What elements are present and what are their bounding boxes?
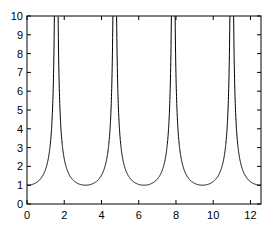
plot-area <box>27 16 261 204</box>
x-tick-label: 6 <box>136 209 142 221</box>
y-tick-label: 6 <box>17 85 23 97</box>
y-tick-label: 9 <box>17 29 23 41</box>
y-tick-label: 3 <box>17 142 23 154</box>
y-tick-label: 4 <box>17 123 23 135</box>
y-tick-label: 8 <box>17 48 23 60</box>
x-tick-label: 2 <box>61 209 67 221</box>
y-tick-label: 7 <box>17 66 23 78</box>
y-tick-label: 1 <box>17 179 23 191</box>
x-tick-label: 10 <box>207 209 219 221</box>
x-tick-label: 12 <box>244 209 256 221</box>
x-tick-label: 4 <box>98 209 104 221</box>
y-tick-label: 2 <box>17 160 23 172</box>
y-tick-label: 10 <box>11 10 23 22</box>
y-tick-label: 5 <box>17 104 23 116</box>
x-tick-label: 0 <box>24 209 30 221</box>
y-tick-label: 0 <box>17 198 23 210</box>
x-tick-label: 8 <box>173 209 179 221</box>
line-chart: 012345678910 024681012 <box>0 0 274 232</box>
